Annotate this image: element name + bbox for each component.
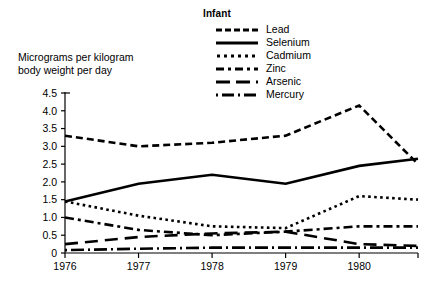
y-tick-label: 2.0 bbox=[42, 176, 57, 188]
x-tick-label: 1978 bbox=[200, 260, 224, 272]
chart-series-group bbox=[65, 105, 418, 250]
series-line-mercury bbox=[65, 248, 418, 250]
x-tick-label: 1980 bbox=[347, 260, 371, 272]
x-tick-label: 1976 bbox=[53, 260, 77, 272]
y-axis-tick-labels: 00.51.01.52.02.53.03.54.04.5 bbox=[42, 87, 57, 259]
y-tick-label: 4.5 bbox=[42, 87, 57, 99]
series-line-lead bbox=[65, 105, 418, 164]
y-tick-label: 4.0 bbox=[42, 105, 57, 117]
series-line-cadmium bbox=[65, 196, 418, 228]
y-tick-label: 3.5 bbox=[42, 122, 57, 134]
series-line-arsenic bbox=[65, 232, 418, 246]
chart-canvas: 00.51.01.52.02.53.03.54.04.5 19761977197… bbox=[0, 0, 428, 289]
y-tick-label: 0.5 bbox=[42, 229, 57, 241]
y-tick-label: 1.0 bbox=[42, 211, 57, 223]
y-tick-label: 2.5 bbox=[42, 158, 57, 170]
series-line-zinc bbox=[65, 217, 418, 235]
x-axis-tick-labels: 19761977197819791980 bbox=[53, 260, 371, 272]
x-tick-label: 1979 bbox=[274, 260, 298, 272]
x-axis-ticks bbox=[65, 253, 418, 258]
series-line-selenium bbox=[65, 159, 418, 202]
y-tick-label: 3.0 bbox=[42, 140, 57, 152]
chart-plot-area: 00.51.01.52.02.53.03.54.04.5 19761977197… bbox=[0, 0, 428, 289]
x-tick-label: 1977 bbox=[127, 260, 151, 272]
y-tick-label: 0 bbox=[51, 247, 57, 259]
y-tick-label: 1.5 bbox=[42, 193, 57, 205]
chart-figure: Micrograms per kilogram body weight per … bbox=[0, 0, 428, 289]
